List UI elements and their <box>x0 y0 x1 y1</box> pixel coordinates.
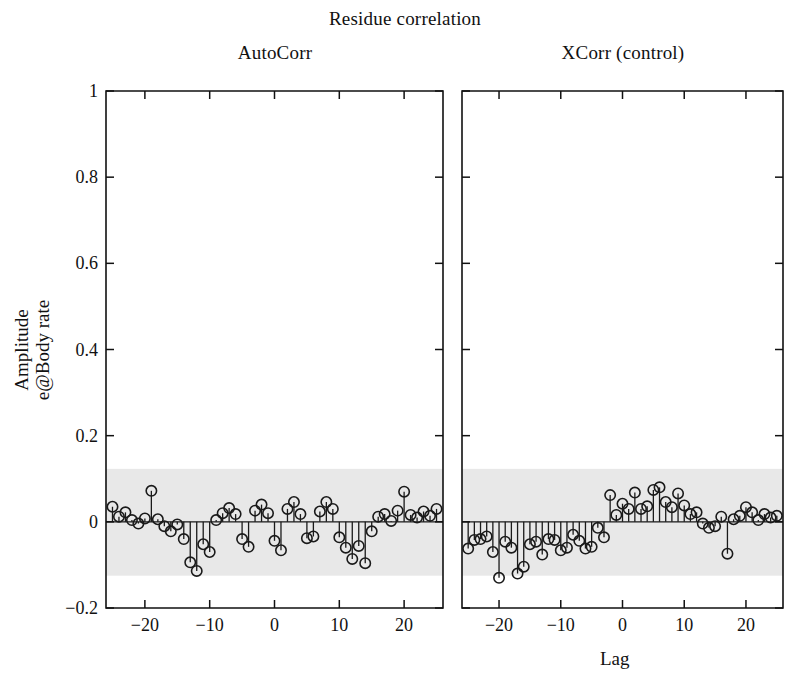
y-tick-label: 0 <box>42 513 98 531</box>
x-tick-label: −10 <box>185 616 235 634</box>
x-tick-label: 20 <box>379 616 429 634</box>
figure-title: Residue correlation <box>0 8 810 30</box>
figure-residue-correlation: Residue correlation AutoCorr XCorr (cont… <box>0 0 810 695</box>
y-tick-label: 1 <box>42 82 98 100</box>
panel-autocorr <box>106 91 443 608</box>
x-tick-label: 10 <box>659 616 709 634</box>
x-tick-label: −20 <box>474 616 524 634</box>
y-tick-label: 0.6 <box>42 254 98 272</box>
x-tick-label: 20 <box>721 616 771 634</box>
x-tick-label: −20 <box>120 616 170 634</box>
panel-xcorr_control <box>462 91 783 608</box>
y-tick-label: 0.8 <box>42 168 98 186</box>
y-tick-label: 0.2 <box>42 427 98 445</box>
x-tick-label: 0 <box>598 616 648 634</box>
y-axis-label-line1: Amplitude <box>11 300 32 400</box>
x-tick-label: 0 <box>250 616 300 634</box>
plot-canvas <box>0 0 810 695</box>
panel-title-autocorr: AutoCorr <box>106 42 444 64</box>
x-tick-label: −10 <box>536 616 586 634</box>
panel-title-xcorr: XCorr (control) <box>462 42 784 64</box>
x-axis-label: Lag <box>600 648 750 670</box>
y-tick-label: −0.2 <box>42 599 98 617</box>
x-tick-label: 10 <box>314 616 364 634</box>
y-tick-label: 0.4 <box>42 341 98 359</box>
